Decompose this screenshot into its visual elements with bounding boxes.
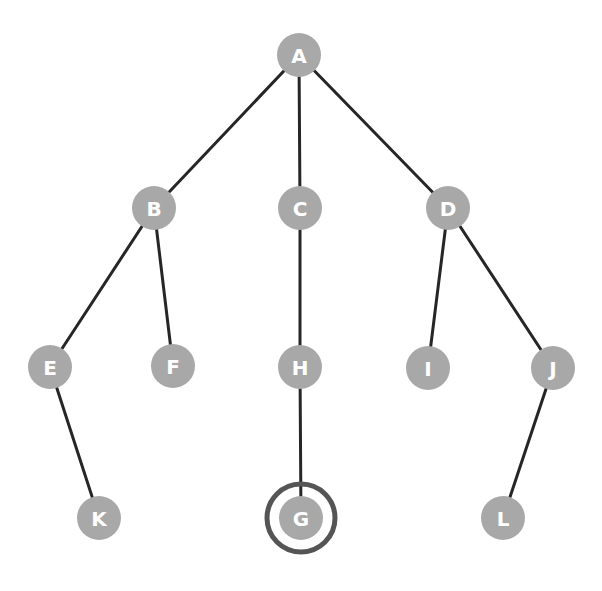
tree-edge-d-j (448, 208, 553, 368)
node-label: E (43, 356, 57, 380)
tree-node-c[interactable]: C (278, 186, 322, 230)
node-label: C (293, 197, 308, 221)
tree-node-e[interactable]: E (28, 345, 72, 389)
node-label: L (497, 507, 510, 531)
node-label: I (424, 357, 431, 381)
tree-edge-a-b (154, 55, 299, 208)
tree-node-i[interactable]: I (406, 346, 450, 390)
tree-node-f[interactable]: F (151, 344, 195, 388)
tree-edge-b-e (50, 208, 154, 367)
tree-node-d[interactable]: D (426, 186, 470, 230)
tree-edge-a-c (299, 55, 300, 208)
tree-node-b[interactable]: B (132, 186, 176, 230)
tree-edge-j-l (503, 368, 553, 518)
tree-node-l[interactable]: L (481, 496, 525, 540)
edge-layer (50, 55, 553, 518)
tree-edge-b-f (154, 208, 173, 366)
tree-edge-d-i (428, 208, 448, 368)
tree-edge-h-g (300, 367, 301, 518)
tree-node-j[interactable]: J (531, 346, 575, 390)
tree-node-k[interactable]: K (77, 496, 121, 540)
tree-graph: ABCDEFHIJKGL (0, 0, 602, 591)
tree-edge-a-d (299, 55, 448, 208)
tree-edge-e-k (50, 367, 99, 518)
node-label: G (293, 507, 309, 531)
node-label: F (166, 355, 180, 379)
node-label: K (91, 507, 108, 531)
node-label: D (440, 197, 457, 221)
tree-node-h[interactable]: H (278, 345, 322, 389)
tree-diagram-canvas: ABCDEFHIJKGL (0, 0, 602, 591)
tree-node-a[interactable]: A (277, 33, 321, 77)
node-label: B (146, 197, 161, 221)
node-label: A (291, 44, 307, 68)
node-label: J (547, 357, 556, 381)
node-label: H (292, 356, 309, 380)
